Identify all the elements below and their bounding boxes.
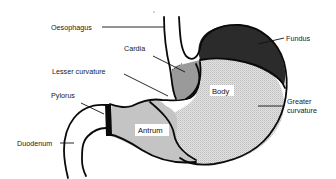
leader-lesser-curvature: [124, 74, 168, 96]
label-body: Body: [212, 87, 230, 96]
label-cardia: Cardia: [124, 44, 145, 53]
label-pylorus: Pylorus: [51, 91, 75, 100]
label-duodenum: Duodenum: [17, 139, 52, 148]
label-antrum: Antrum: [138, 126, 162, 135]
oesophagus-right-wall: [179, 17, 200, 59]
label-oesophagus: Oesophagus: [51, 23, 92, 32]
label-lesser-curvature: Lesser curvature: [52, 67, 106, 76]
duodenum-inner-wall: [82, 128, 106, 176]
stomach-diagram: Oesophagus Cardia Lesser curvature Pylor…: [0, 0, 336, 179]
speck: [153, 11, 154, 12]
leader-cardia: [153, 56, 185, 72]
label-fundus: Fundus: [286, 34, 310, 43]
pylorus-sphincter: [105, 104, 112, 136]
label-greater-curvature-line2: curvature: [287, 106, 317, 115]
label-greater-curvature-line1: Greater: [287, 97, 312, 106]
